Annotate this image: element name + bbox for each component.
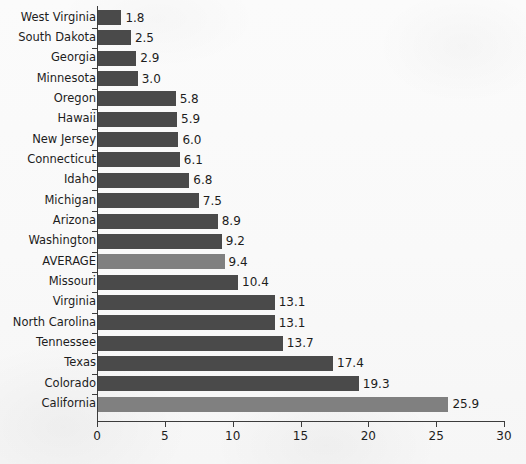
bar-value-label: 13.7 bbox=[287, 337, 314, 349]
bar bbox=[97, 132, 178, 147]
x-axis-tick-label: 10 bbox=[213, 430, 253, 442]
bar bbox=[97, 71, 138, 86]
bar-value-label: 6.1 bbox=[184, 154, 203, 166]
x-axis-tick bbox=[504, 422, 505, 427]
x-axis-tick-label: 5 bbox=[145, 430, 185, 442]
bar-value-label: 5.8 bbox=[180, 93, 199, 105]
bar bbox=[97, 10, 121, 25]
x-axis-tick-label: 30 bbox=[484, 430, 524, 442]
bar bbox=[97, 51, 136, 66]
bar-value-label: 9.4 bbox=[229, 256, 248, 268]
bar-value-label: 2.5 bbox=[135, 32, 154, 44]
bar bbox=[97, 254, 225, 269]
bar bbox=[97, 214, 218, 229]
x-axis-tick bbox=[165, 422, 166, 427]
y-axis-category-label: Minnesota bbox=[37, 73, 96, 85]
y-axis-line bbox=[97, 6, 98, 421]
x-axis-tick bbox=[368, 422, 369, 427]
y-axis-category-label: New Jersey bbox=[32, 134, 96, 146]
bar-value-label: 9.2 bbox=[226, 235, 245, 247]
bar bbox=[97, 91, 176, 106]
bar bbox=[97, 234, 222, 249]
y-axis-category-label: Texas bbox=[64, 357, 96, 369]
y-axis-category-label: Tennessee bbox=[36, 337, 96, 349]
bar-value-label: 7.5 bbox=[203, 195, 222, 207]
bar-value-label: 8.9 bbox=[222, 215, 241, 227]
bar-value-label: 3.0 bbox=[142, 73, 161, 85]
bar-value-label: 19.3 bbox=[363, 378, 390, 390]
y-axis-category-label: South Dakota bbox=[18, 32, 96, 44]
bar bbox=[97, 295, 275, 310]
y-axis-category-label: Virginia bbox=[53, 296, 96, 308]
bar bbox=[97, 152, 180, 167]
y-axis-category-label: Arizona bbox=[53, 215, 96, 227]
y-axis-category-label: Connecticut bbox=[27, 154, 96, 166]
bar-chart: West Virginia1.8South Dakota2.5Georgia2.… bbox=[0, 0, 526, 464]
y-axis-category-label: Hawaii bbox=[57, 113, 96, 125]
bar-value-label: 13.1 bbox=[279, 317, 306, 329]
bar-value-label: 6.0 bbox=[182, 134, 201, 146]
bar bbox=[97, 173, 189, 188]
bar-value-label: 2.9 bbox=[140, 52, 159, 64]
bar bbox=[97, 336, 283, 351]
y-axis-category-label: Oregon bbox=[54, 93, 96, 105]
x-axis-tick bbox=[97, 422, 98, 427]
bar-value-label: 25.9 bbox=[452, 398, 479, 410]
bar bbox=[97, 275, 238, 290]
bar-value-label: 5.9 bbox=[181, 113, 200, 125]
bar-value-label: 17.4 bbox=[337, 357, 364, 369]
bar-value-label: 13.1 bbox=[279, 296, 306, 308]
bar bbox=[97, 30, 131, 45]
x-axis-tick-label: 25 bbox=[416, 430, 456, 442]
x-axis-tick bbox=[233, 422, 234, 427]
bar-value-label: 1.8 bbox=[125, 12, 144, 24]
x-axis-tick-label: 15 bbox=[281, 430, 321, 442]
bar-value-label: 6.8 bbox=[193, 174, 212, 186]
bar bbox=[97, 356, 333, 371]
x-axis-tick-label: 20 bbox=[348, 430, 388, 442]
x-axis-tick bbox=[301, 422, 302, 427]
y-axis-category-label: West Virginia bbox=[21, 12, 96, 24]
bar-value-label: 10.4 bbox=[242, 276, 269, 288]
y-axis-category-label: Idaho bbox=[64, 174, 96, 186]
y-axis-category-label: Michigan bbox=[44, 195, 96, 207]
bar bbox=[97, 376, 359, 391]
y-axis-category-label: Washington bbox=[28, 235, 96, 247]
bar bbox=[97, 112, 177, 127]
y-axis-category-label: AVERAGE bbox=[42, 256, 96, 268]
y-axis-category-label: North Carolina bbox=[13, 317, 96, 329]
x-axis-tick-label: 0 bbox=[77, 430, 117, 442]
y-axis-category-label: Georgia bbox=[51, 52, 96, 64]
bar bbox=[97, 193, 199, 208]
x-axis-tick bbox=[436, 422, 437, 427]
y-axis-category-label: Colorado bbox=[45, 378, 96, 390]
bar bbox=[97, 315, 275, 330]
bar bbox=[97, 397, 448, 412]
y-axis-category-label: Missouri bbox=[49, 276, 96, 288]
y-axis-category-label: California bbox=[41, 398, 96, 410]
